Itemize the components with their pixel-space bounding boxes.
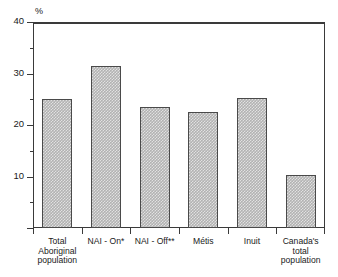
y-tick-label: 40 (13, 16, 24, 26)
x-axis-category-line: population (33, 256, 82, 266)
x-axis-category-line: NAI - Off** (130, 237, 179, 247)
bar-slot (179, 22, 228, 228)
bar (286, 175, 316, 228)
bar (188, 112, 218, 228)
x-tick-mark (130, 228, 131, 234)
x-axis-category-label: Métis (179, 237, 228, 247)
bar (91, 66, 121, 228)
bar-slot (228, 22, 277, 228)
chart-title (44, 0, 304, 3)
x-tick-mark (276, 228, 277, 234)
bars-layer (33, 22, 325, 228)
x-axis-category-label: Canada'stotalpopulation (276, 237, 325, 266)
x-tick-mark (228, 228, 229, 234)
x-axis-category-label: TotalAboriginalpopulation (33, 237, 82, 266)
x-tick-mark (82, 228, 83, 234)
bar-chart-figure: % 10203040 TotalAboriginalpopulationNAI … (0, 0, 338, 277)
x-axis: TotalAboriginalpopulationNAI - On*NAI - … (33, 228, 325, 277)
bar-slot (276, 22, 325, 228)
bar (237, 98, 267, 228)
bar (140, 107, 170, 228)
bar-slot (82, 22, 131, 228)
y-tick-label: 20 (13, 119, 24, 129)
bar (42, 99, 72, 228)
x-axis-category-line: NAI - On* (82, 237, 131, 247)
x-axis-category-label: Inuit (228, 237, 277, 247)
x-axis-category-line: Inuit (228, 237, 277, 247)
y-axis-unit-label: % (35, 6, 43, 16)
x-axis-category-line: population (276, 256, 325, 266)
bar-slot (130, 22, 179, 228)
bar-slot (33, 22, 82, 228)
x-axis-category-label: NAI - Off** (130, 237, 179, 247)
x-axis-category-line: Métis (179, 237, 228, 247)
x-tick-mark (324, 228, 325, 234)
x-axis-category-label: NAI - On* (82, 237, 131, 247)
x-tick-mark (33, 228, 34, 234)
y-axis: 10203040 (0, 22, 33, 229)
x-tick-mark (179, 228, 180, 234)
y-tick-label: 30 (13, 68, 24, 78)
y-tick-label: 10 (13, 171, 24, 181)
